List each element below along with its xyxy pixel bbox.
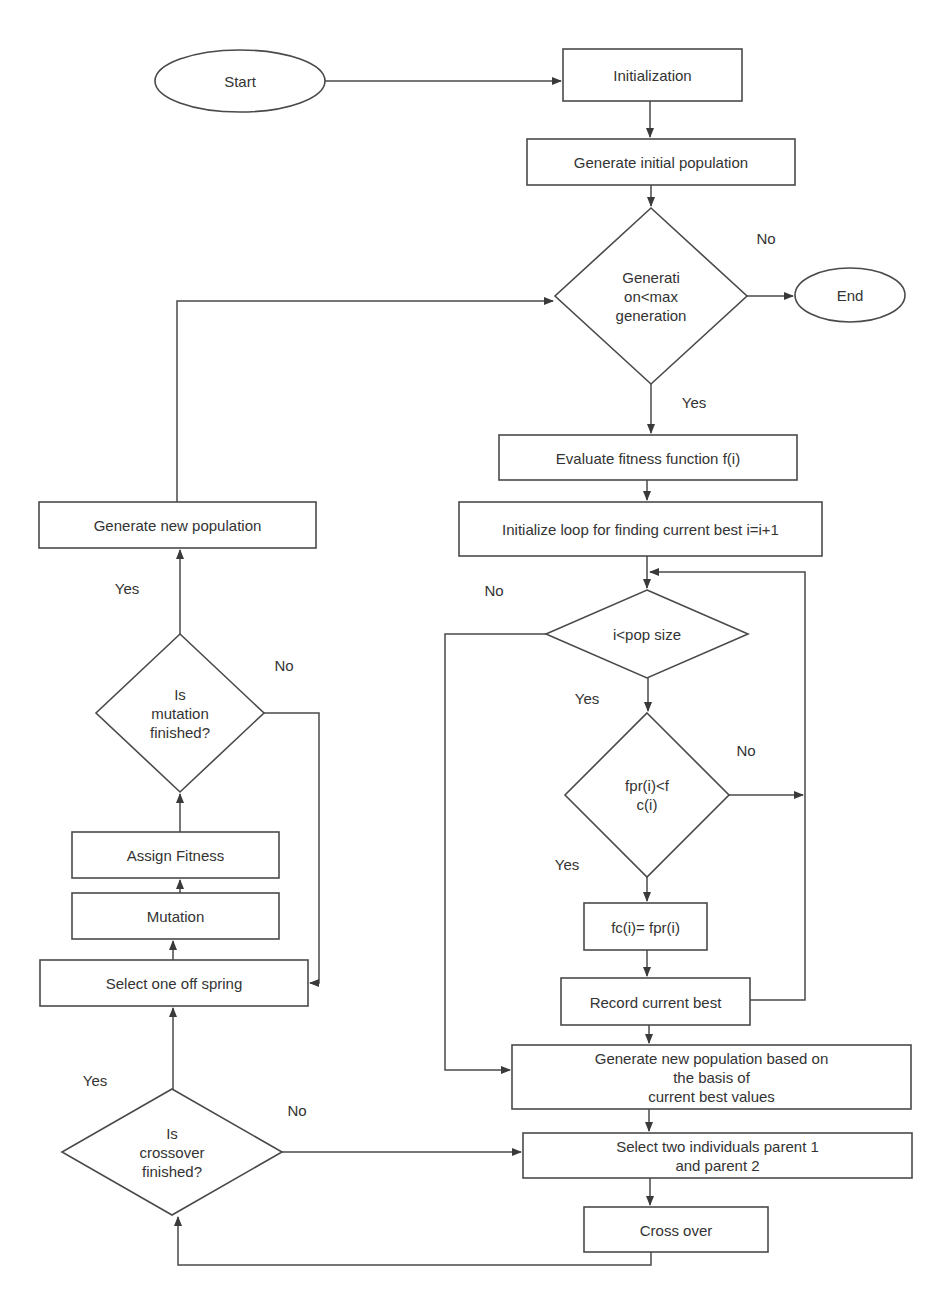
node-label-end: End (837, 286, 864, 305)
node-label-mutation: Mutation (147, 907, 205, 926)
node-label-select-parents: Select two individuals parent 1 and pare… (603, 1137, 832, 1175)
edge-label-yes: Yes (682, 393, 706, 412)
node-label-select-offspring: Select one off spring (106, 974, 242, 993)
edge-label-yes: Yes (575, 689, 599, 708)
node-label-assign-fitness: Assign Fitness (127, 846, 225, 865)
edge-label-yes: Yes (555, 855, 579, 874)
node-label-gen-initial-pop: Generate initial population (574, 153, 748, 172)
node-label-pop-check: i<pop size (613, 625, 681, 644)
node-label-start: Start (224, 72, 256, 91)
connector-pop_check-to-gen_new_pop_best (445, 634, 546, 1070)
node-label-gen-new-pop-best: Generate new population based on the bas… (594, 1049, 829, 1106)
node-label-record-best: Record current best (590, 992, 722, 1011)
node-label-crossover-check: Is crossover finished? (139, 1124, 204, 1181)
node-label-evaluate: Evaluate fitness function f(i) (556, 448, 740, 467)
edge-label-no: No (736, 741, 755, 760)
edge-label-no: No (756, 229, 775, 248)
connector-gen_new_pop-to-gen_check (177, 301, 553, 502)
node-label-cross-over: Cross over (640, 1220, 713, 1239)
node-label-gen-new-pop: Generate new population (94, 516, 262, 535)
node-label-fit-check: fpr(i)<f c(i) (625, 776, 669, 814)
edge-label-no: No (484, 581, 503, 600)
node-label-mutation-check: Is mutation finished? (150, 685, 210, 742)
node-label-gen-check: Generati on<max generation (616, 268, 687, 325)
node-label-init-loop: Initialize loop for finding current best… (502, 520, 779, 539)
edge-label-yes: Yes (83, 1071, 107, 1090)
connector-cross_over-to-crossover_check (178, 1217, 651, 1265)
edge-label-yes: Yes (115, 579, 139, 598)
edge-label-no: No (274, 656, 293, 675)
node-label-initialization: Initialization (613, 66, 691, 85)
node-label-assign-fc: fc(i)= fpr(i) (611, 917, 680, 936)
edge-label-no: No (287, 1101, 306, 1120)
